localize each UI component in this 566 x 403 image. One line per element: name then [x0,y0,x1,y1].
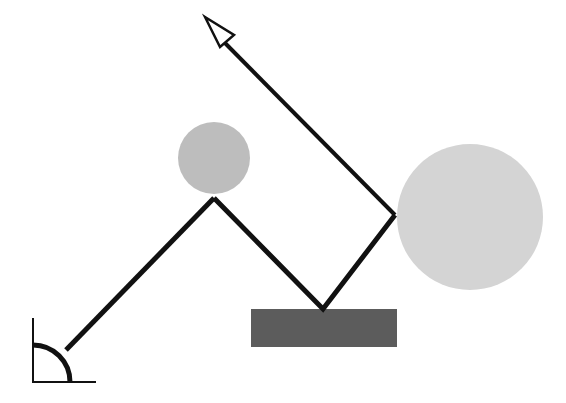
large-ball [397,144,543,290]
arm-v-joint [214,198,395,309]
small-ball [178,122,250,194]
arm-lower-left [66,198,214,350]
base-block [251,309,397,347]
linkage-diagram [0,0,566,403]
diagram-canvas [0,0,566,403]
